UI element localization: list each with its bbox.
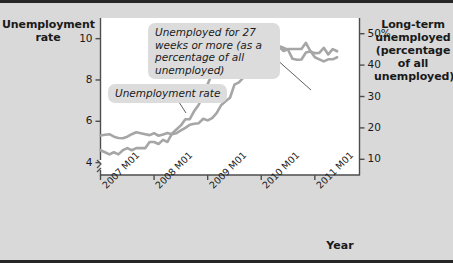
right-tick-label-20: 20 — [368, 121, 398, 133]
callout-long-term-unemployed: Unemployed for 27 weeks or more (as a pe… — [148, 23, 280, 79]
callout-unemployment-rate: Unemployment rate — [108, 84, 227, 103]
left-tick-label-4: 4 — [67, 156, 93, 168]
right-axis-ticks — [360, 34, 365, 160]
right-tick-label-50: 50% — [368, 27, 398, 39]
left-tick-label-10: 10 — [67, 32, 93, 44]
left-tick-label-6: 6 — [67, 114, 93, 126]
right-tick-label-30: 30 — [368, 90, 398, 102]
right-tick-label-40: 40 — [368, 58, 398, 70]
left-axis-ticks — [96, 39, 101, 163]
right-tick-label-10: 10 — [368, 152, 398, 164]
chart-figure: Unemployment rate Long-term unemployed (… — [0, 0, 453, 263]
left-tick-label-8: 8 — [67, 73, 93, 85]
